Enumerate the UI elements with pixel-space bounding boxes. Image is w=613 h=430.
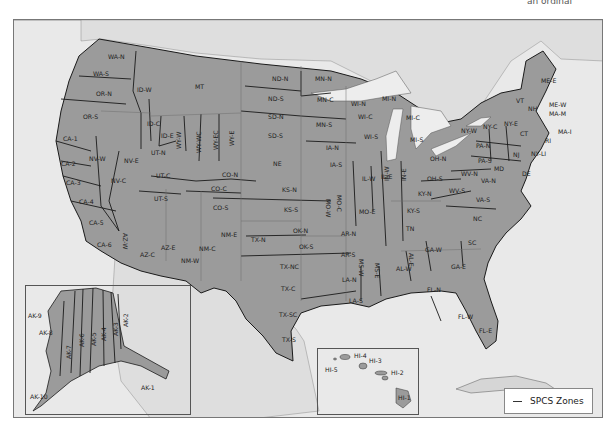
zone-label: VT [516,97,524,104]
zone-label: WV-S [449,187,465,194]
zone-label: AZ-C [140,251,155,258]
zone-label: SD-S [268,132,283,139]
zone-label: MD [494,165,504,172]
zone-label: AL-E [408,253,415,267]
zone-label: PA-N [476,142,491,149]
zone-label: SD-N [268,113,284,120]
alaska-inset [25,285,191,415]
zone-label: CO-S [213,204,229,211]
zone-label: MN-C [317,96,334,103]
zone-label: ID-E [161,132,174,139]
zone-label: UT-S [154,195,168,202]
zone-label: NM-W [181,257,199,264]
zone-label: MI-N [382,95,396,102]
zone-label: TX-S [281,336,296,343]
zone-label: IL-W [362,175,375,182]
zone-label: NV-W [89,155,106,162]
zone-label: KS-N [282,186,297,193]
hawaii-inset [317,348,419,415]
zone-label: MS-E [374,263,381,278]
zone-label: OK-S [299,243,314,250]
zone-label: CO-N [222,171,239,178]
zone-label: TX-N [250,236,266,243]
zone-label: FL-W [458,313,473,320]
zone-label: TX-SC [278,311,297,318]
zone-label: IN-E [400,168,407,181]
zone-label: NM-E [221,231,237,238]
zone-label: VA-S [476,196,490,203]
zone-label: RI [545,137,551,144]
zone-label: FL-N [427,286,441,293]
zone-label: MT [195,83,204,90]
zone-label: UT-N [151,149,166,156]
zone-label: GA-W [425,246,442,253]
zone-label: OR-S [83,113,98,120]
legend-label: SPCS Zones [530,396,584,406]
zone-label: VA-N [481,177,496,184]
zone-label: SC [468,239,476,246]
zone-label: MI-S [410,136,423,143]
zone-label: WI-N [351,100,366,107]
zone-label: AZ-E [161,244,176,251]
zone-label: WA-S [93,70,109,77]
zone-label: DE [522,170,531,177]
zone-label: CO-C [211,185,227,192]
zone-label: NY-LI [531,150,546,157]
zone-label: MS-W [358,259,365,276]
zone-label: ME-E [541,77,556,84]
zone-label: MN-S [316,121,332,128]
zone-label: KY-N [418,190,432,197]
zone-label: MO-W [325,199,332,217]
zone-label: MA-I [558,128,572,135]
zone-label: TX-NC [279,263,299,270]
zone-label: TX-C [280,285,295,292]
zone-label: CA-1 [63,135,78,142]
zone-label: LA-N [342,276,357,283]
zone-label: WY-EC [212,130,219,150]
zone-label: NH [528,105,538,112]
zone-label: WY-WC [195,131,202,153]
zone-label: CA-3 [66,179,81,186]
zone-label: NJ [513,151,520,159]
zone-label: TN [405,225,415,232]
zone-label: NY-C [483,123,497,130]
zone-label: CT [520,130,528,137]
zone-label: WY-E [228,131,235,146]
zone-label: NV-C [111,177,126,184]
zone-label: MO-C [336,195,343,212]
zone-label: ND-N [272,75,289,82]
zone-label: IA-N [326,144,339,151]
zone-label: FL-E [479,327,492,334]
zone-label: MI-C [406,114,420,121]
map-legend: SPCS Zones [504,388,593,414]
zone-label: NY-E [504,120,518,127]
zone-label: CA-5 [89,219,104,226]
zone-label: MA-M [549,110,566,117]
zone-label: MN-N [315,75,332,82]
zone-label: NY-W [461,127,477,134]
zone-label: NM-C [199,245,216,252]
zone-label: WI-C [358,113,373,120]
zone-label: AZ-W [122,233,129,249]
map-frame: WA-N WA-S OR-N OR-S ID-W MT ID-C ID-E WY… [13,19,603,418]
zone-line-icon [513,401,522,402]
zone-label: ID-C [147,120,160,127]
zone-label: NC [473,215,482,222]
zone-label: ID-W [137,86,152,93]
zone-label: WY-W [175,132,182,149]
zone-label: CA-4 [79,198,94,205]
zone-label: WV-N [461,170,478,177]
zone-label: IA-S [330,161,342,168]
zone-label: AR-N [341,230,357,237]
zone-label: PA-S [478,157,492,164]
zone-label: OH-S [427,175,443,182]
zone-label: NV-E [124,157,139,164]
zone-label: KS-S [284,206,298,213]
zone-label: WA-N [108,53,125,60]
zone-label: OH-N [430,155,447,162]
zone-label: OR-N [96,90,112,97]
zone-label: MO-E [359,208,376,215]
zone-label: IN-W [383,166,390,181]
zone-label: WI-S [364,133,378,140]
zone-label: CA-2 [61,160,76,167]
